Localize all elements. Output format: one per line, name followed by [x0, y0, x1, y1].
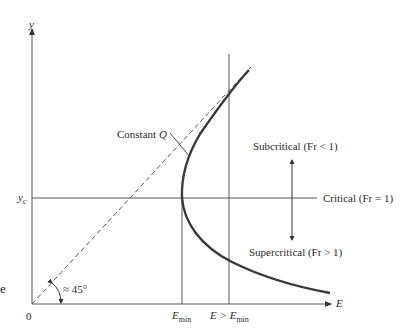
origin-label: 0: [26, 311, 32, 322]
subcritical-label: Subcritical (Fr < 1): [253, 141, 338, 152]
y-axis-label: y: [29, 19, 34, 30]
critical-label: Critical (Fr = 1): [323, 193, 393, 204]
45-degree-dashed-line: [32, 67, 251, 304]
emin-label: Emin: [172, 310, 191, 324]
constant-q-label: Constant Q: [117, 129, 167, 140]
edge-text-fragment: e: [0, 282, 6, 295]
angle-label: ≈ 45°: [63, 284, 87, 295]
yc-label: yc: [18, 192, 26, 206]
x-axis-label: E: [336, 298, 343, 309]
e-gt-emin-label: E > Emin: [210, 310, 249, 324]
supercritical-label: Supercritical (Fr > 1): [249, 247, 342, 258]
specific-energy-curve: [182, 70, 330, 293]
angle-arc: [52, 283, 61, 303]
specific-energy-diagram: [0, 0, 411, 334]
